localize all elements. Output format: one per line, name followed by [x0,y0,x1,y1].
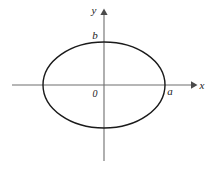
ellipse-figure: y x 0 b a [0,0,214,169]
y-axis-label: y [91,4,97,16]
semi-major-axis-label-a: a [167,85,173,97]
ellipse-figure-canvas: y x 0 b a [0,0,214,169]
x-axis-arrow-icon [191,81,198,88]
x-axis-label: x [199,79,205,91]
y-axis-arrow-icon [100,9,107,16]
origin-label: 0 [93,88,98,99]
semi-minor-axis-label-b: b [92,29,98,41]
